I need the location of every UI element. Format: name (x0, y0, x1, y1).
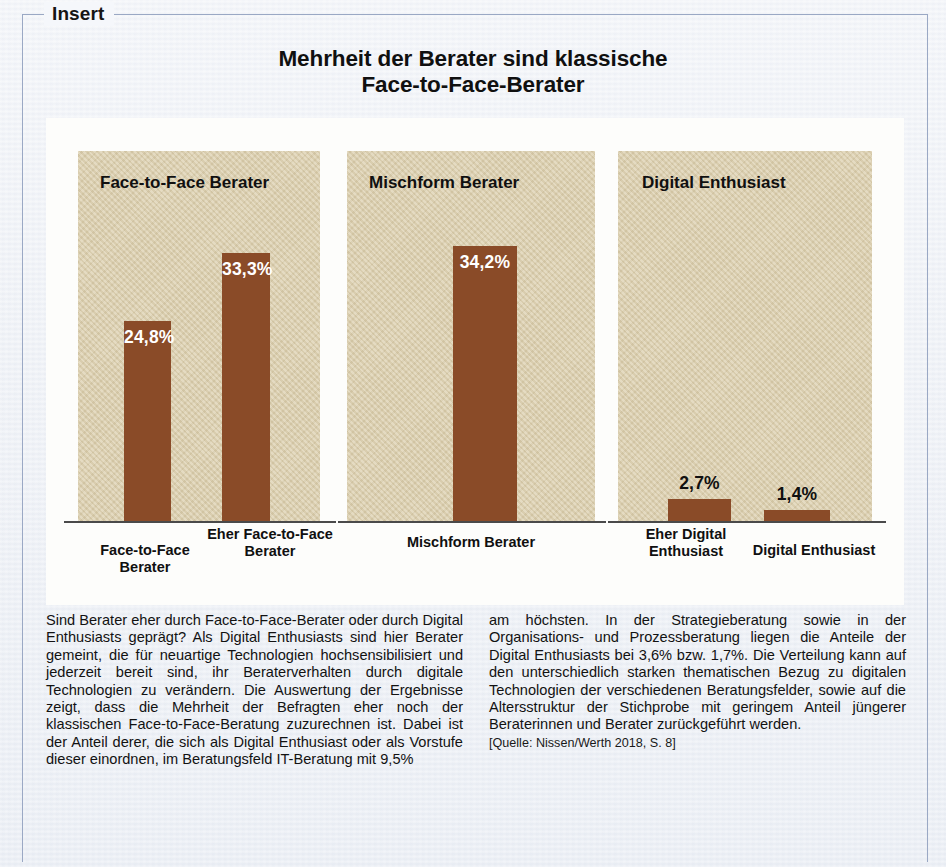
category-label-eher-digital-enthusiast: Eher Digital Enthusiast (618, 526, 754, 560)
body-column-right: am höchsten. In der Strategieberatung so… (489, 612, 906, 769)
body-paragraph-left: Sind Berater eher durch Face-to-Face-Ber… (46, 612, 463, 769)
bar-face-to-face-berater: 24,8% (124, 321, 171, 521)
chart-panel-face-to-face: Face-to-Face Berater 24,8% 33,3% (78, 151, 320, 521)
bar-mischform-berater: 34,2% (453, 246, 517, 521)
bar-value-label: 1,4% (764, 484, 830, 505)
body-text: Sind Berater eher durch Face-to-Face-Ber… (46, 612, 906, 769)
body-column-left: Sind Berater eher durch Face-to-Face-Ber… (46, 612, 463, 769)
axis-line-panel-3 (608, 521, 886, 523)
category-label-digital-enthusiast: Digital Enthusiast (752, 542, 876, 559)
bar-digital-enthusiast: 1,4% (764, 510, 830, 521)
panel-title-digital-enthusiast: Digital Enthusiast (642, 173, 786, 193)
bar-value-label: 34,2% (453, 252, 517, 273)
page-title-line2: Face-to-Face-Berater (0, 72, 946, 98)
page-title-line1: Mehrheit der Berater sind klassische (278, 46, 667, 71)
source-citation: [Quelle: Nissen/Werth 2018, S. 8] (489, 736, 906, 751)
figure-plate: Face-to-Face Berater 24,8% 33,3% Mischfo… (46, 118, 904, 605)
panel-title-mischform: Mischform Berater (369, 173, 519, 193)
bar-eher-face-to-face-berater: 33,3% (222, 253, 270, 521)
chart-panel-digital-enthusiast: Digital Enthusiast 2,7% 1,4% (618, 151, 872, 521)
axis-line-panel-2 (338, 521, 606, 523)
category-label-face-to-face-berater: Face-to-Face Berater (80, 542, 210, 576)
chart-panel-mischform: Mischform Berater 34,2% (347, 151, 595, 521)
insert-legend-label: Insert (44, 2, 114, 26)
page-title: Mehrheit der Berater sind klassische Fac… (0, 46, 946, 98)
category-label-mischform-berater: Mischform Berater (346, 534, 596, 551)
category-label-eher-face-to-face-berater: Eher Face-to-Face Berater (196, 526, 344, 560)
bar-value-label: 33,3% (222, 259, 270, 280)
bar-eher-digital-enthusiast: 2,7% (668, 499, 731, 521)
body-paragraph-right: am höchsten. In der Strategieberatung so… (489, 612, 906, 734)
axis-line-panel-1 (64, 521, 336, 523)
bar-value-label: 24,8% (124, 327, 171, 348)
bar-value-label: 2,7% (668, 473, 731, 494)
panel-title-face-to-face: Face-to-Face Berater (100, 173, 269, 193)
